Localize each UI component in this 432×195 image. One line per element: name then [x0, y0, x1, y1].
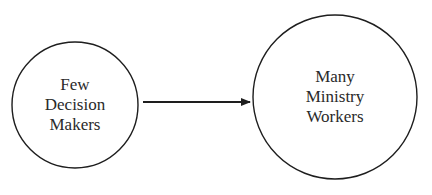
- label-line: Ministry: [280, 87, 390, 107]
- label-line: Decision: [25, 95, 125, 115]
- ministry-workers-label: Many Ministry Workers: [280, 67, 390, 127]
- label-line: Workers: [280, 107, 390, 127]
- decision-makers-label: Few Decision Makers: [25, 75, 125, 135]
- label-line: Many: [280, 67, 390, 87]
- label-line: Makers: [25, 115, 125, 135]
- label-line: Few: [25, 75, 125, 95]
